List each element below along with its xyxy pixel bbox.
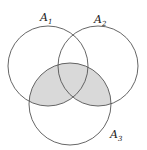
shaded-region [8, 26, 138, 106]
label-a3: A3 [109, 128, 123, 143]
label-a1: A1 [39, 11, 52, 26]
venn-diagram: A1 A2 A3 [0, 0, 147, 150]
label-a2: A2 [93, 13, 107, 28]
